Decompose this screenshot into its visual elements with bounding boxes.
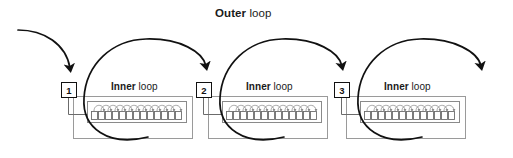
step-number-box-1[interactable]: 1 — [61, 82, 77, 98]
step-number-box-3[interactable]: 3 — [334, 82, 350, 98]
outer-loop-arc-1 — [84, 39, 206, 140]
inner-loop-cells-1 — [92, 112, 182, 120]
diagram-vector-layer — [0, 0, 513, 158]
step-number-box-2[interactable]: 2 — [196, 82, 212, 98]
outer-loop-arc-3 — [358, 39, 481, 140]
inner-loop-cells-2 — [227, 112, 317, 120]
step-number-label-2: 2 — [197, 85, 211, 96]
outer-loop-arc-2 — [220, 39, 342, 140]
nested-loop-diagram: Outer loop Inner loop Inner loop Inner l… — [0, 0, 513, 158]
inner-loop-arcs-3 — [367, 105, 454, 111]
step-number-label-3: 3 — [335, 85, 349, 96]
inner-loop-arcs-1 — [94, 105, 181, 111]
inner-loop-arcs-2 — [229, 105, 316, 111]
outer-loop-arrow-entry — [18, 30, 70, 68]
inner-loop-cells-3 — [365, 112, 455, 120]
step-number-label-1: 1 — [62, 85, 76, 96]
